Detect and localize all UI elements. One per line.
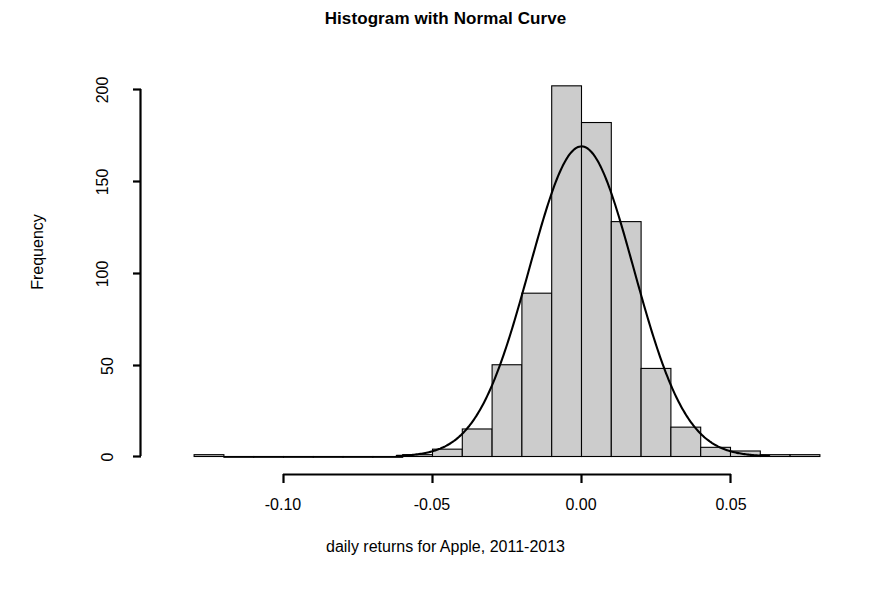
histogram-bar (611, 222, 641, 457)
histogram-bars (194, 86, 820, 457)
histogram-bar (701, 447, 731, 456)
histogram-bar (582, 123, 612, 457)
histogram-bar (313, 457, 343, 458)
histogram-bar (343, 457, 373, 458)
histogram-bar (671, 427, 701, 456)
histogram-bar (641, 368, 671, 456)
plot-canvas (0, 0, 891, 598)
histogram-bar (790, 455, 820, 457)
histogram-bar (254, 457, 284, 458)
histogram-plot: Histogram with Normal Curve Frequency da… (0, 0, 891, 598)
histogram-bar (284, 457, 314, 458)
histogram-bar (224, 457, 254, 458)
histogram-bar (462, 429, 492, 457)
histogram-bar (492, 365, 522, 457)
histogram-bar (194, 455, 224, 457)
histogram-bar (522, 293, 552, 456)
histogram-bar (552, 86, 582, 457)
